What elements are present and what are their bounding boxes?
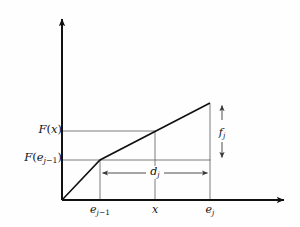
sub-minus-one: −1	[46, 156, 58, 165]
cdf-polyline	[62, 103, 210, 200]
subscript-j-minus-1: j−1	[44, 156, 58, 165]
cdf-curve	[62, 103, 210, 200]
base-d: d	[150, 165, 157, 178]
annotation-label-f-j: fj	[217, 125, 227, 142]
sub-minus-one: −1	[99, 208, 110, 217]
y-axis-label-f-of-x: F(x)	[39, 124, 62, 136]
paren-close: )	[58, 122, 63, 136]
guide-lines	[62, 104, 211, 201]
paren-close: )	[58, 150, 63, 164]
x-tick-label-x: x	[152, 204, 158, 215]
x-tick-label-e-j-minus-1: ej−1	[90, 204, 110, 217]
subscript-j-minus-1: j−1	[97, 208, 110, 217]
figure-canvas: F(x) F(ej−1) ej−1 x ej dj fj	[0, 0, 300, 227]
fn-symbol-F: F	[39, 122, 47, 136]
subscript-j: j	[223, 131, 225, 140]
subscript-j: j	[212, 208, 214, 217]
y-axis-label-f-of-e-j-minus-1: F(ej−1)	[24, 152, 62, 165]
x-tick-label-e-j: ej	[206, 204, 215, 217]
cdf-diagram	[0, 0, 300, 227]
arg-e: e	[37, 150, 44, 164]
base-x: x	[152, 203, 158, 216]
annotation-label-d-j: dj	[147, 166, 162, 179]
subscript-j: j	[157, 170, 159, 179]
